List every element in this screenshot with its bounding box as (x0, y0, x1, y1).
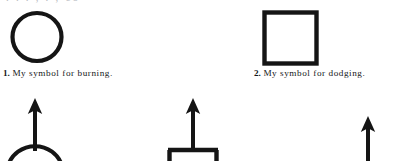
figure-1-caption-text: My symbol for burning. (12, 68, 112, 78)
circle-up-arrow-icon (0, 96, 80, 161)
figure-1-circle-symbol (10, 10, 68, 66)
figure-3-circle-with-arrow-partial (0, 96, 80, 161)
clipped-top-text: . . . , . , co (6, 0, 80, 3)
clipped-top-text-line: . . . , . , co (0, 0, 396, 6)
up-arrow-icon (352, 113, 396, 161)
figure-2-square-symbol (261, 9, 321, 67)
figure-2-caption-text: My symbol for dodging. (263, 68, 365, 78)
square-up-arrow-icon (140, 96, 250, 161)
figure-1-caption: 1. My symbol for burning. (3, 68, 113, 78)
figure-1-caption-number: 1. (3, 68, 10, 78)
circle-icon (10, 10, 68, 66)
figure-4-square-with-arrow-partial (140, 96, 250, 161)
figure-5-arrow-partial (352, 113, 396, 161)
figure-2-caption-number: 2. (254, 68, 261, 78)
square-icon (261, 9, 321, 67)
figure-2-caption: 2. My symbol for dodging. (254, 68, 365, 78)
scanned-page: . . . , . , co 1. My symbol for burning.… (0, 0, 396, 161)
